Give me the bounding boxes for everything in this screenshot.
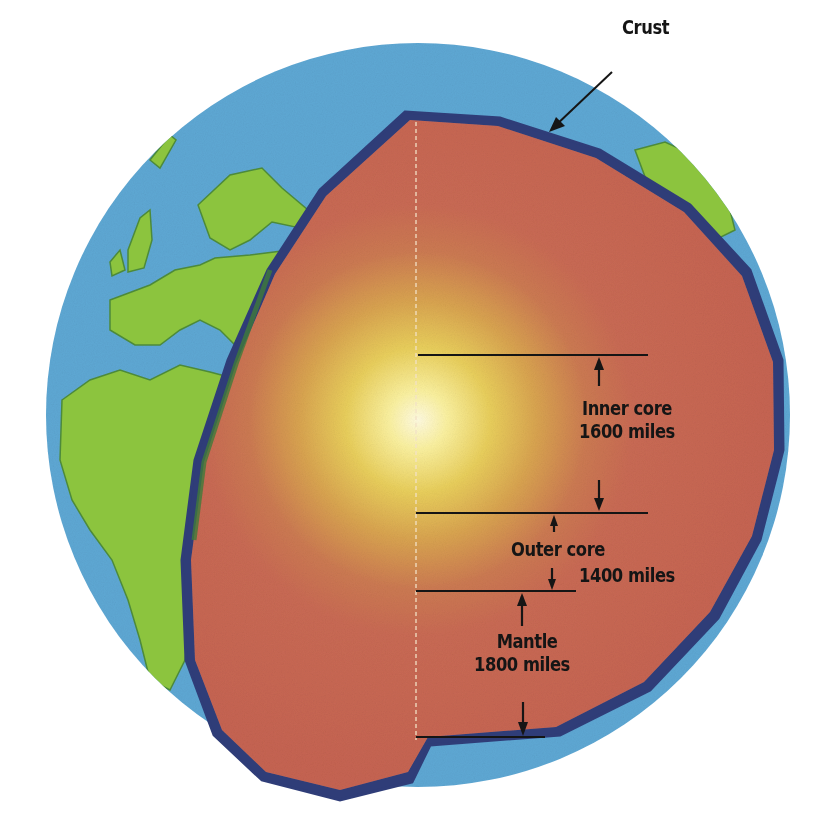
outer-core-thickness: 1400 miles	[579, 564, 675, 587]
inner-core-name: Inner core	[579, 397, 675, 420]
mantle-thickness: 1800 miles	[474, 653, 570, 676]
outer-core-name: Outer core	[511, 538, 605, 561]
earth-cutaway-diagram	[0, 0, 829, 822]
inner-core-thickness: 1600 miles	[579, 420, 675, 443]
crust-label: Crust	[622, 16, 669, 39]
mantle-label: Mantle 1800 miles	[474, 630, 570, 676]
inner-core-label: Inner core 1600 miles	[579, 397, 675, 443]
mantle-name: Mantle	[474, 630, 570, 653]
